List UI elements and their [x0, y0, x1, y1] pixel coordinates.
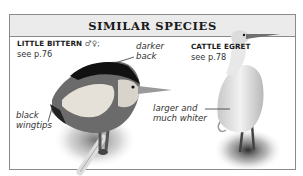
bird-illustrations [0, 0, 303, 176]
little-bittern-label: LITTLE BITTERN ♂♀; [17, 39, 100, 48]
sex-symbols: ♂♀; [85, 39, 100, 48]
annotation-black-wingtips: black wingtips [16, 110, 52, 130]
little-bittern-name: LITTLE BITTERN [17, 39, 82, 48]
cattle-egret-page-ref: see p.78 [191, 52, 226, 62]
darker-back-leader-line [115, 57, 134, 63]
little-bittern-page-ref: see p.76 [17, 49, 52, 59]
annotation-larger-whiter: larger and much whiter [153, 103, 207, 123]
cattle-egret-name: CATTLE EGRET [191, 42, 251, 51]
annotation-darker-back: darker back [136, 41, 164, 61]
